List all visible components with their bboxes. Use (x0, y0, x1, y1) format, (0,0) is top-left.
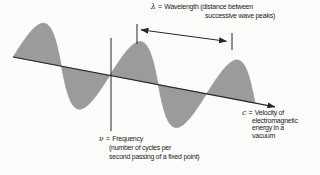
equals-sign: = (248, 109, 252, 116)
em-wave-figure: λ=Wavelength (distance between successiv… (0, 0, 320, 175)
velocity-label-line4: vacuum (242, 132, 298, 140)
velocity-label: c=Velocity of electromagnetic energy in … (242, 109, 298, 139)
wave-fill (13, 23, 255, 127)
c-symbol: c (242, 108, 246, 117)
frequency-label-line2: (number of cycles per (99, 143, 199, 152)
frequency-label-line3: second passing of a fixed point) (99, 152, 199, 161)
wavelength-label-line1: λ=Wavelength (distance between (151, 2, 275, 11)
frequency-label: ν=Frequency (number of cycles per second… (99, 134, 199, 161)
velocity-label-line1: c=Velocity of (242, 109, 298, 117)
wavelength-label-text: Wavelength (distance between (164, 3, 252, 10)
equals-sign: = (158, 3, 162, 10)
wavelength-label-line2: successive wave peaks) (151, 11, 275, 20)
velocity-label-text: Velocity of (255, 109, 284, 116)
nu-symbol: ν (99, 134, 103, 143)
velocity-label-line3: energy in a (242, 124, 298, 132)
velocity-label-line2: electromagnetic (242, 117, 298, 125)
wavelength-measure-arrow (141, 30, 227, 42)
frequency-label-line1: ν=Frequency (99, 134, 199, 143)
lambda-symbol: λ (151, 2, 156, 11)
frequency-label-text: Frequency (112, 135, 143, 142)
wavelength-label: λ=Wavelength (distance between successiv… (151, 2, 275, 20)
equals-sign: = (106, 135, 110, 142)
